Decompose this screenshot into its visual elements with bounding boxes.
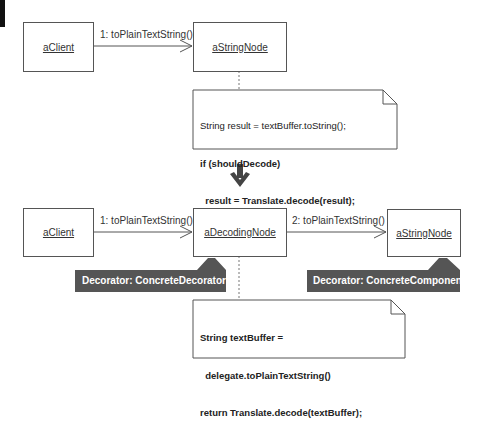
after-decoding-node-object: aDecodingNode	[193, 208, 287, 257]
before-message-label: 1: toPlainTextString()	[100, 29, 193, 40]
after-string-node-label: aStringNode	[396, 228, 452, 239]
after-string-node-object: aStringNode	[387, 209, 461, 257]
note-line: return Translate.decode(textBuffer);	[200, 407, 362, 420]
after-decoding-node-label: aDecodingNode	[204, 227, 276, 238]
note-line: result = Translate.decode(result);	[200, 195, 355, 208]
before-string-node-object: aStringNode	[193, 22, 287, 72]
note-line: delegate.toPlainTextString()	[200, 370, 362, 383]
concrete-decorator-tag: Decorator: ConcreteDecorator	[82, 275, 226, 286]
note-line: String textBuffer =	[200, 332, 362, 345]
after-client-label: aClient	[43, 227, 74, 238]
note-line: String result = textBuffer.toString();	[200, 120, 355, 133]
before-string-node-label: aStringNode	[212, 42, 268, 53]
before-client-label: aClient	[43, 42, 74, 53]
after-message-2-label: 2: toPlainTextString()	[292, 215, 385, 226]
concrete-component-tag: Decorator: ConcreteComponent	[313, 275, 465, 286]
before-client-object: aClient	[23, 22, 94, 72]
note-line: if (shouldDecode)	[200, 158, 355, 171]
after-code-note: String textBuffer = delegate.toPlainText…	[200, 307, 362, 422]
after-client-object: aClient	[23, 208, 94, 257]
after-message-1-label: 1: toPlainTextString()	[100, 215, 193, 226]
